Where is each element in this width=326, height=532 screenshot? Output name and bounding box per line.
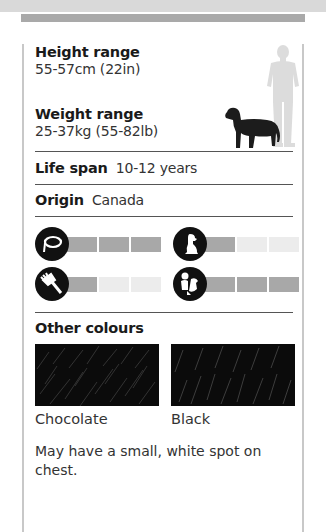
dog-silhouette-icon xyxy=(223,106,283,156)
rating-bars xyxy=(205,277,299,292)
height-section: Height range 55-57cm (22in) xyxy=(35,44,140,77)
origin-label: Origin xyxy=(35,192,84,208)
rating-bars xyxy=(67,277,161,292)
rating-family xyxy=(173,267,299,301)
rating-bar-filled xyxy=(269,277,299,292)
life-span-value: 10-12 years xyxy=(116,160,197,176)
rating-bar-filled xyxy=(237,277,267,292)
colour-note: May have a small, white spot on chest. xyxy=(35,442,265,480)
colour-swatch-black: Black xyxy=(171,344,295,427)
divider xyxy=(35,216,293,217)
weight-label: Weight range xyxy=(35,106,158,122)
divider xyxy=(35,184,293,185)
other-colours-title: Other colours xyxy=(35,320,144,336)
rating-bar-empty xyxy=(237,237,267,252)
sitting-dog-icon xyxy=(173,227,207,261)
origin-value: Canada xyxy=(92,192,144,208)
rating-bar-filled xyxy=(205,237,235,252)
rating-bars xyxy=(67,237,161,252)
comb-icon xyxy=(35,267,69,301)
colour-swatch-chocolate: Chocolate xyxy=(35,344,159,427)
rating-training xyxy=(173,227,299,261)
rating-bars xyxy=(205,237,299,252)
rating-exercise xyxy=(35,227,161,261)
height-label: Height range xyxy=(35,44,140,60)
divider xyxy=(35,151,293,152)
rating-grooming xyxy=(35,267,161,301)
rating-bar-empty xyxy=(99,277,129,292)
swatch-label: Chocolate xyxy=(35,411,159,427)
header-bar xyxy=(21,14,305,22)
rating-bar-filled xyxy=(205,277,235,292)
weight-section: Weight range 25-37kg (55-82lb) xyxy=(35,106,158,139)
life-span-row: Life span 10-12 years xyxy=(35,160,197,176)
divider xyxy=(35,312,293,313)
rating-bar-filled xyxy=(131,237,161,252)
rating-bar-filled xyxy=(67,277,97,292)
child-with-dog-icon xyxy=(173,267,207,301)
rating-bar-empty xyxy=(131,277,161,292)
rating-bar-filled xyxy=(99,237,129,252)
swatch-label: Black xyxy=(171,411,295,427)
rating-bar-empty xyxy=(269,237,299,252)
leash-icon xyxy=(35,227,69,261)
black-fur-swatch xyxy=(171,344,295,406)
life-span-label: Life span xyxy=(35,160,108,176)
chocolate-fur-swatch xyxy=(35,344,159,406)
weight-value: 25-37kg (55-82lb) xyxy=(35,123,158,139)
rating-bar-filled xyxy=(67,237,97,252)
header-band xyxy=(0,0,326,12)
origin-row: Origin Canada xyxy=(35,192,144,208)
breed-info-card: Height range 55-57cm (22in) Weight range… xyxy=(22,44,304,532)
height-value: 55-57cm (22in) xyxy=(35,61,140,77)
